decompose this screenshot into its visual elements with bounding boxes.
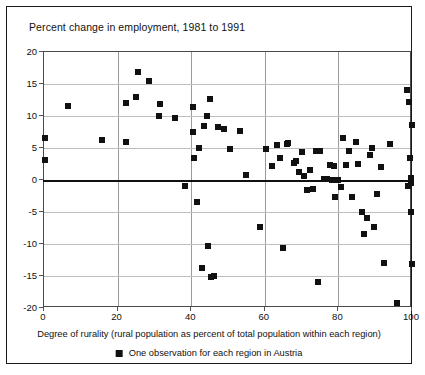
data-point [274,142,280,148]
data-point [201,123,207,129]
data-point [133,94,139,100]
data-point [407,155,413,161]
y-tick-mark [39,147,43,148]
data-point [196,145,202,151]
data-point [237,128,243,134]
legend-marker-square [116,350,123,357]
data-point [199,265,205,271]
y-tick-mark [39,115,43,116]
data-point [65,103,71,109]
data-point [331,163,337,169]
y-tick-mark [39,275,43,276]
data-point [42,135,48,141]
data-point [315,279,321,285]
data-point [257,224,263,230]
chart-title: Percent change in employment, 1981 to 19… [29,21,245,33]
data-point [299,149,305,155]
data-point [409,261,415,267]
data-point [243,172,249,178]
y-tick-mark [39,83,43,84]
data-point [317,148,323,154]
data-point [332,194,338,200]
data-point [123,139,129,145]
data-point [215,124,221,130]
x-tick-label: 20 [111,311,122,322]
data-point [364,215,370,221]
data-point [227,146,233,152]
data-point [404,87,410,93]
data-point [263,146,269,152]
data-point [307,167,313,173]
gridline-vertical [265,52,266,306]
data-point [408,209,414,215]
data-point [211,273,217,279]
y-tick-label: 0 [7,174,37,185]
data-point [123,100,129,106]
data-point [406,99,412,105]
data-point [205,243,211,249]
y-tick-label: -10 [7,238,37,249]
y-tick-label: 10 [7,110,37,121]
data-point [338,184,344,190]
y-tick-label: -5 [7,206,37,217]
x-tick-label: 60 [259,311,270,322]
y-tick-label: 15 [7,78,37,89]
data-point [349,194,355,200]
y-tick-label: 5 [7,142,37,153]
data-point [277,155,283,161]
y-tick-mark [39,243,43,244]
data-point [310,186,316,192]
x-tick-label: 80 [332,311,343,322]
data-point [335,177,341,183]
data-point [374,191,380,197]
data-point [371,224,377,230]
gridline-horizontal [44,276,410,277]
data-point [369,145,375,151]
data-point [408,180,414,186]
data-point [301,173,307,179]
chart-legend: One observation for each region in Austr… [116,348,303,358]
data-point [367,152,373,158]
plot-area [43,51,411,307]
data-point [207,96,213,102]
gridline-vertical [191,52,192,306]
y-tick-mark [39,179,43,180]
data-point [157,101,163,107]
y-tick-mark [39,307,43,308]
y-tick-label: -20 [7,302,37,313]
gridline-horizontal [44,244,410,245]
gridline-horizontal [44,116,410,117]
data-point [394,300,400,306]
legend-label: One observation for each region in Austr… [129,348,303,358]
gridline-horizontal [44,84,410,85]
data-point [409,122,415,128]
gridline-vertical [118,52,119,306]
data-point [172,115,178,121]
y-tick-label: -15 [7,270,37,281]
data-point [378,164,384,170]
data-point [135,69,141,75]
data-point [146,78,152,84]
figure-frame: Percent change in employment, 1981 to 19… [6,6,412,364]
data-point [359,209,365,215]
data-point [361,231,367,237]
y-tick-mark [39,51,43,52]
data-point [190,129,196,135]
data-point [285,140,291,146]
data-point [343,162,349,168]
data-point [387,141,393,147]
x-axis-title: Degree of rurality (rural population as … [37,329,381,339]
data-point [381,260,387,266]
data-point [42,157,48,163]
data-point [99,137,105,143]
data-point [269,163,275,169]
data-point [353,139,359,145]
data-point [221,126,227,132]
data-point [293,158,299,164]
y-tick-mark [39,211,43,212]
data-point [204,113,210,119]
data-point [340,135,346,141]
data-point [156,113,162,119]
data-point [191,155,197,161]
data-point [182,183,188,189]
